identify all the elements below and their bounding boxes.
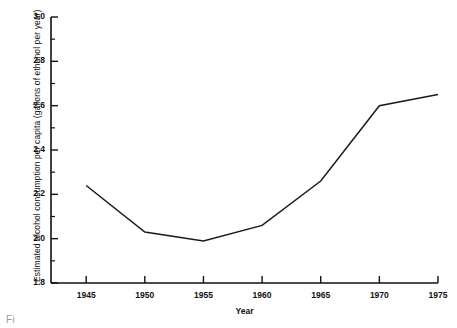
y-tick-label: 2.2 [15,188,45,198]
x-axis-major-ticks [86,276,438,283]
caption-fragment: Fi [6,314,15,325]
line-chart-figure: Estimated alcohol consumption per capita… [0,0,457,328]
x-tick-label: 1950 [125,290,165,300]
x-tick-label: 1970 [359,290,399,300]
data-series-line [86,95,438,241]
x-tick-label: 1975 [418,290,457,300]
y-tick-label: 2.6 [15,100,45,110]
x-tick-label: 1965 [301,290,341,300]
x-tick-label: 1955 [183,290,223,300]
x-axis-title: Year [51,306,438,316]
y-tick-label: 2.8 [15,55,45,65]
x-tick-label: 1945 [66,290,106,300]
x-tick-label: 1960 [242,290,282,300]
y-tick-label: 2.4 [15,144,45,154]
y-tick-label: 1.8 [15,277,45,287]
y-tick-label: 3.0 [15,11,45,21]
y-tick-label: 2.0 [15,233,45,243]
plot-area [0,0,457,328]
y-axis-major-ticks [51,17,58,283]
axes [51,17,438,283]
